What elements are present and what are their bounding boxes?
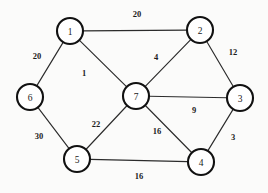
graph-node-2[interactable]: 2 [187, 17, 213, 43]
graph-edge-3-4 [208, 109, 233, 151]
nodes-layer: 1234567 [17, 17, 253, 175]
graph-edge-6-5 [38, 107, 69, 148]
edge-weight-label: 20 [33, 51, 42, 61]
node-label: 7 [134, 92, 139, 102]
node-label: 3 [238, 94, 243, 104]
graph-canvas: 1234567 202014129316223016 [0, 0, 268, 193]
node-label: 4 [199, 158, 204, 168]
node-label: 2 [198, 26, 203, 36]
graph-edge-2-7 [145, 39, 191, 86]
graph-node-3[interactable]: 3 [227, 85, 253, 111]
graph-edge-1-2 [83, 30, 187, 31]
edge-weight-label: 22 [92, 119, 101, 129]
edge-weight-label: 16 [135, 171, 144, 181]
graph-node-7[interactable]: 7 [123, 83, 149, 109]
graph-node-1[interactable]: 1 [57, 18, 83, 44]
node-label: 6 [28, 93, 33, 103]
graph-edge-1-6 [37, 42, 64, 86]
graph-node-6[interactable]: 6 [17, 84, 43, 110]
graph-node-5[interactable]: 5 [64, 146, 90, 172]
graph-edge-7-3 [149, 96, 227, 98]
edge-weight-label: 3 [231, 132, 235, 142]
edge-weight-label: 1 [82, 68, 86, 78]
graph-edge-5-4 [90, 159, 188, 161]
graph-figure: 1234567 202014129316223016 [0, 0, 268, 193]
edge-weight-label: 12 [229, 47, 238, 57]
graph-edge-1-7 [79, 40, 126, 87]
edge-weight-label: 20 [133, 9, 142, 19]
edge-weight-label: 16 [153, 126, 162, 136]
graph-node-4[interactable]: 4 [188, 149, 214, 175]
edge-weight-label: 4 [154, 52, 159, 62]
node-label: 5 [75, 155, 80, 165]
node-label: 1 [68, 27, 73, 37]
edge-weight-label: 30 [35, 131, 44, 141]
edge-weight-label: 9 [192, 105, 196, 115]
